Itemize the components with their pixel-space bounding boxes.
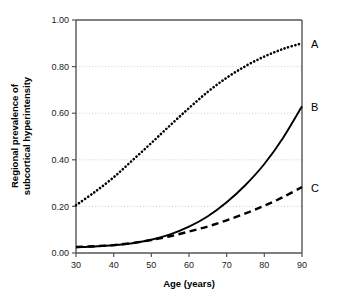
y-tick-label-0.00: 0.00	[51, 248, 69, 258]
curve-label-B: B	[311, 101, 318, 113]
x-axis-title-group: Age (years)	[163, 278, 215, 289]
x-tick-label-60: 60	[184, 260, 194, 270]
x-tick-label-40: 40	[109, 260, 119, 270]
y-axis-title-group: Regional prevalence of subcortical hyper…	[9, 76, 32, 195]
x-tick-label-70: 70	[222, 260, 232, 270]
y-tick-label-0.40: 0.40	[51, 155, 69, 165]
y-tick-label-1.00: 1.00	[51, 15, 69, 25]
prevalence-vs-age-line-chart: 0.000.200.400.600.801.00 30405060708090 …	[0, 0, 343, 300]
x-tick-label-30: 30	[71, 260, 81, 270]
y-tick-label-0.60: 0.60	[51, 108, 69, 118]
chart-figure: 0.000.200.400.600.801.00 30405060708090 …	[0, 0, 343, 300]
curve-label-A: A	[311, 38, 319, 50]
x-tick-label-80: 80	[259, 260, 269, 270]
x-axis-title: Age (years)	[163, 278, 215, 289]
x-tick-label-50: 50	[146, 260, 156, 270]
curve-label-C: C	[311, 182, 319, 194]
x-tick-label-90: 90	[297, 260, 307, 270]
y-axis-title-line1: Regional prevalence of	[9, 83, 20, 188]
y-tick-label-0.20: 0.20	[51, 202, 69, 212]
y-tick-label-0.80: 0.80	[51, 62, 69, 72]
y-axis-title-line2: subcortical hyperintensity	[21, 76, 32, 195]
